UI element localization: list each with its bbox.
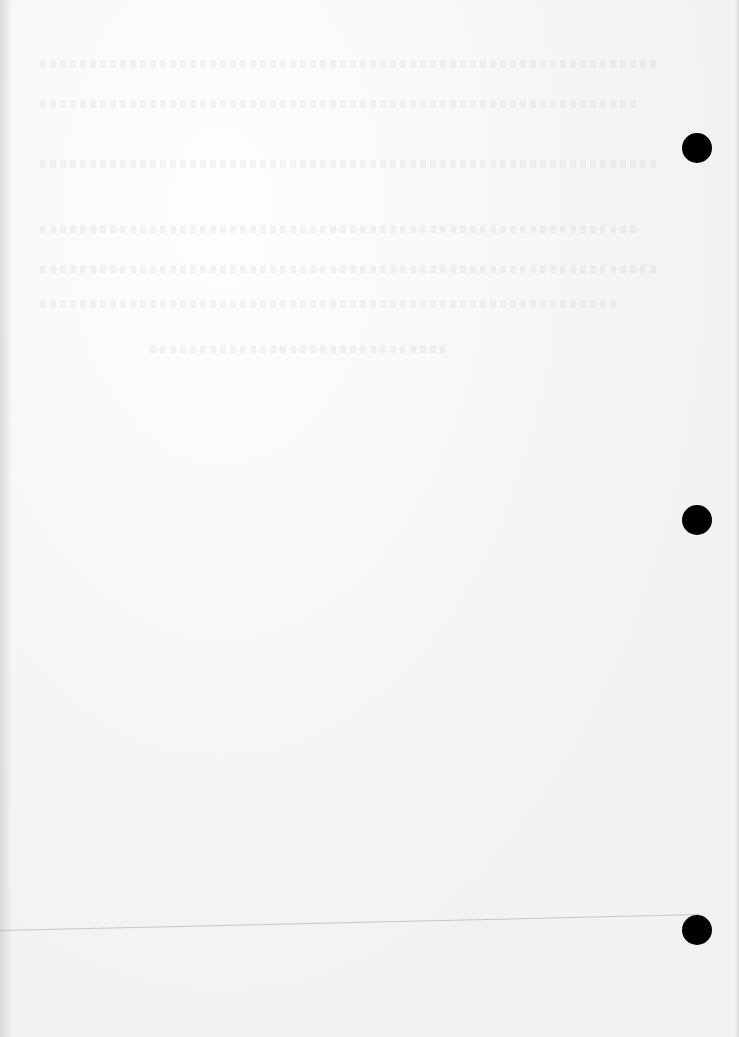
- page-left-edge-shadow: [0, 0, 12, 1037]
- bleed-through-line: [40, 300, 620, 308]
- scanned-page: [0, 0, 739, 1037]
- bleed-through-line: [40, 160, 660, 168]
- bleed-through-line: [150, 345, 450, 353]
- binder-hole: [682, 133, 712, 163]
- bleed-through-line: [40, 225, 640, 233]
- binder-hole: [682, 505, 712, 535]
- bleed-through-line: [40, 60, 660, 68]
- binder-hole: [682, 915, 712, 945]
- bleed-through-line: [40, 265, 660, 273]
- faint-line: [0, 914, 700, 931]
- page-right-edge-shadow: [735, 0, 739, 1037]
- bleed-through-line: [40, 100, 640, 108]
